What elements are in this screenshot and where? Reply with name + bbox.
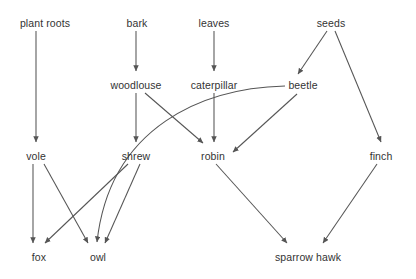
node-beetle[interactable]: beetle xyxy=(288,80,317,91)
edge-shrew-to-fox xyxy=(45,164,128,243)
food-web-diagram: plant roots bark leaves seeds woodlouse … xyxy=(0,0,416,279)
edge-seeds-to-finch xyxy=(335,31,381,142)
food-web-edges-layer xyxy=(0,0,416,279)
node-fox[interactable]: fox xyxy=(32,252,46,263)
node-plant-roots[interactable]: plant roots xyxy=(20,18,70,29)
node-seeds[interactable]: seeds xyxy=(317,18,346,29)
edge-robin-to-sparrow-hawk xyxy=(216,164,287,243)
edge-woodlouse-to-robin xyxy=(145,93,203,143)
edge-finch-to-sparrow-hawk xyxy=(323,164,377,243)
node-caterpillar[interactable]: caterpillar xyxy=(191,80,238,91)
node-owl[interactable]: owl xyxy=(90,252,106,263)
edge-shrew-to-owl xyxy=(105,164,140,243)
edge-vole-to-owl xyxy=(44,164,88,243)
node-leaves[interactable]: leaves xyxy=(199,18,230,29)
node-vole[interactable]: vole xyxy=(26,151,46,162)
node-sparrow-hawk[interactable]: sparrow hawk xyxy=(275,252,341,263)
edge-seeds-to-beetle xyxy=(298,31,327,74)
edge-beetle-to-robin xyxy=(233,94,297,152)
node-finch[interactable]: finch xyxy=(370,151,393,162)
node-woodlouse[interactable]: woodlouse xyxy=(110,80,161,91)
node-robin[interactable]: robin xyxy=(201,151,225,162)
node-bark[interactable]: bark xyxy=(127,18,148,29)
edge-beetle-to-owl xyxy=(97,86,285,242)
node-shrew[interactable]: shrew xyxy=(122,151,151,162)
